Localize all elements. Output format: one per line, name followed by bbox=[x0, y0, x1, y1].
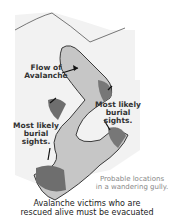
caption: Avalanche victims who are rescued alive … bbox=[0, 199, 174, 217]
label-flow-of-avalanche: Flow of Avalanche bbox=[24, 64, 68, 80]
burial-left-line-2: burial sights. bbox=[10, 130, 62, 146]
probable-line-1: Probable locations bbox=[94, 175, 170, 183]
caption-line-1: Avalanche victims who are bbox=[0, 199, 174, 208]
burial-right-line-2: burial sights. bbox=[92, 109, 144, 125]
probable-line-2: in a wandering gully. bbox=[94, 183, 170, 191]
flow-line-2: Avalanche bbox=[24, 72, 68, 80]
label-burial-right: Most likely burial sights. bbox=[92, 101, 144, 125]
label-probable-locations: Probable locations in a wandering gully. bbox=[94, 175, 170, 191]
label-burial-left: Most likely burial sights. bbox=[10, 122, 62, 146]
caption-line-2: rescued alive must be evacuated bbox=[0, 208, 174, 217]
